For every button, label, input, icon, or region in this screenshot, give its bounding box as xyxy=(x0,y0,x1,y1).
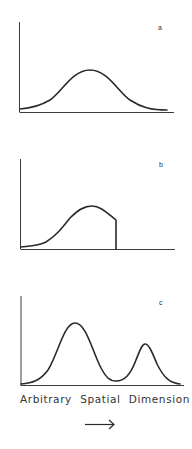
panel-b-curve xyxy=(21,206,116,249)
panel-a-curve xyxy=(20,70,167,110)
panel-b-label: b xyxy=(159,161,163,168)
panel-a: a xyxy=(20,22,175,113)
panel-a-label: a xyxy=(158,24,162,31)
panel-c-label: c xyxy=(159,299,163,306)
right-arrow-icon xyxy=(85,420,114,429)
x-axis-label-word-3: Dimension xyxy=(129,393,190,405)
x-axis-label: Arbitrary Spatial Dimension xyxy=(20,393,190,405)
x-axis-label-word-2: Spatial xyxy=(80,393,120,405)
figure-canvas: a b c xyxy=(0,0,192,449)
panel-b: b xyxy=(21,159,176,250)
x-axis-label-word-1: Arbitrary xyxy=(20,393,72,405)
panel-c: c xyxy=(21,296,184,386)
panel-c-curve xyxy=(21,323,180,384)
